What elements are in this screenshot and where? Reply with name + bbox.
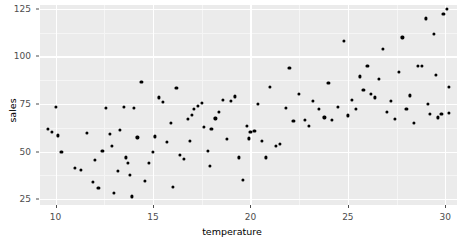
x-axis-tick-label: 20 <box>235 212 265 222</box>
x-axis-tick-label: 25 <box>333 212 363 222</box>
y-axis-tick-mark <box>36 151 39 152</box>
x-axis-tick-label: 15 <box>138 212 168 222</box>
y-axis-tick-mark <box>36 56 39 57</box>
x-axis-tick-mark <box>56 205 57 208</box>
x-axis-title: temperature <box>0 226 464 237</box>
x-axis-tick-mark <box>153 205 154 208</box>
y-axis-title: sales <box>7 81 18 141</box>
y-axis-tick-label: 125 <box>3 4 31 14</box>
x-axis-tick-label: 10 <box>41 212 71 222</box>
y-axis-tick-label: 50 <box>3 147 31 157</box>
y-axis <box>0 0 464 244</box>
scatter-plot-figure: temperature sales 2550751001251015202530 <box>0 0 464 244</box>
x-axis-tick-label: 30 <box>430 212 460 222</box>
y-axis-tick-label: 75 <box>3 99 31 109</box>
x-axis-tick-mark <box>348 205 349 208</box>
y-axis-tick-mark <box>36 8 39 9</box>
x-axis-tick-mark <box>445 205 446 208</box>
y-axis-tick-mark <box>36 104 39 105</box>
x-axis-tick-mark <box>250 205 251 208</box>
y-axis-tick-label: 25 <box>3 194 31 204</box>
y-axis-tick-mark <box>36 199 39 200</box>
y-axis-tick-label: 100 <box>3 51 31 61</box>
